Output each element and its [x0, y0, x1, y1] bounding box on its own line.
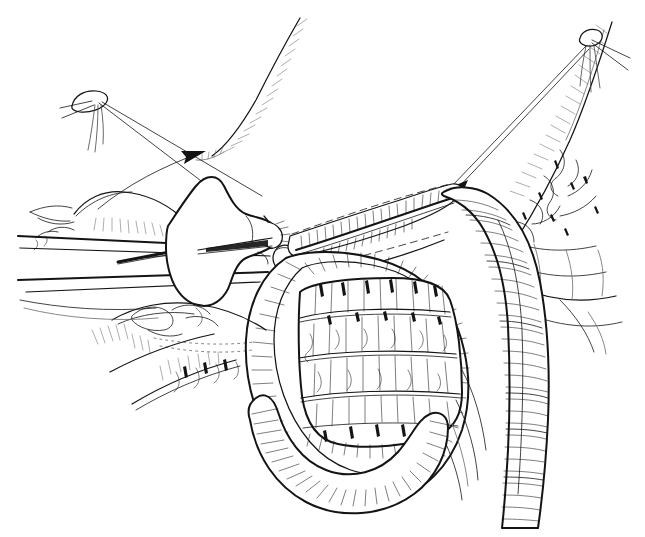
surgical-illustration-canvas	[0, 0, 645, 537]
illustration-svg	[0, 0, 645, 537]
bowel-loop-anterior	[246, 252, 469, 513]
